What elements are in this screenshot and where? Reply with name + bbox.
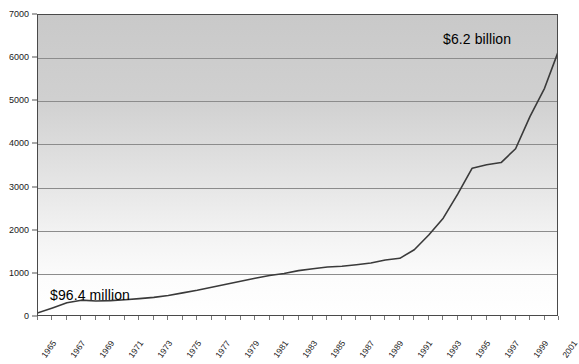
y-tick-label: 2000 <box>9 225 29 235</box>
x-tick-mark <box>413 316 414 320</box>
x-tick-label: 1981 <box>271 338 290 359</box>
x-tick-label: 1967 <box>68 338 87 359</box>
plot-area <box>37 14 558 316</box>
series-polyline <box>38 50 558 313</box>
y-tick-label: 0 <box>24 311 29 321</box>
x-tick-mark <box>558 316 559 320</box>
x-tick-mark <box>240 316 241 320</box>
x-tick-mark <box>182 316 183 320</box>
x-tick-mark <box>80 316 81 320</box>
x-tick-label: 1977 <box>213 338 232 359</box>
x-tick-mark <box>457 316 458 320</box>
x-tick-mark <box>399 316 400 320</box>
x-tick-mark <box>95 316 96 320</box>
x-tick-label: 1985 <box>329 338 348 359</box>
x-tick-mark <box>312 316 313 320</box>
x-tick-mark <box>138 316 139 320</box>
y-tick-label: 4000 <box>9 138 29 148</box>
x-tick-label: 1995 <box>473 338 492 359</box>
x-tick-mark <box>51 316 52 320</box>
x-tick-mark <box>109 316 110 320</box>
x-tick-mark <box>544 316 545 320</box>
x-tick-mark <box>341 316 342 320</box>
x-tick-mark <box>384 316 385 320</box>
x-tick-label: 2001 <box>560 338 579 359</box>
x-tick-label: 1991 <box>415 338 434 359</box>
x-tick-mark <box>167 316 168 320</box>
x-tick-mark <box>196 316 197 320</box>
x-tick-mark <box>153 316 154 320</box>
x-tick-mark <box>442 316 443 320</box>
x-tick-mark <box>486 316 487 320</box>
x-tick-label: 1989 <box>387 338 406 359</box>
x-tick-mark <box>428 316 429 320</box>
x-tick-label: 1969 <box>97 338 116 359</box>
x-tick-label: 1987 <box>358 338 377 359</box>
x-tick-mark <box>37 316 38 320</box>
series-line-value <box>38 15 558 316</box>
x-tick-label: 1965 <box>39 338 58 359</box>
x-tick-mark <box>370 316 371 320</box>
annotation-high-value: $6.2 billion <box>443 31 511 47</box>
x-tick-label: 1983 <box>300 338 319 359</box>
y-tick-label: 6000 <box>9 52 29 62</box>
x-tick-mark <box>225 316 226 320</box>
x-tick-mark <box>283 316 284 320</box>
x-tick-label: 1975 <box>184 338 203 359</box>
y-tick-label: 3000 <box>9 182 29 192</box>
x-tick-mark <box>471 316 472 320</box>
x-tick-mark <box>298 316 299 320</box>
x-tick-mark <box>326 316 327 320</box>
x-tick-mark <box>66 316 67 320</box>
x-tick-mark <box>254 316 255 320</box>
x-tick-mark <box>529 316 530 320</box>
x-axis: 1965196719691971197319751977197919811983… <box>37 316 558 364</box>
y-tick-label: 7000 <box>9 9 29 19</box>
x-tick-label: 1999 <box>531 338 550 359</box>
x-tick-label: 1993 <box>444 338 463 359</box>
y-tick-label: 5000 <box>9 95 29 105</box>
x-tick-label: 1997 <box>502 338 521 359</box>
x-tick-mark <box>500 316 501 320</box>
x-tick-label: 1973 <box>155 338 174 359</box>
x-tick-mark <box>269 316 270 320</box>
x-tick-mark <box>355 316 356 320</box>
y-axis: 01000200030004000500060007000 <box>0 0 37 330</box>
y-tick-label: 1000 <box>9 268 29 278</box>
x-tick-label: 1971 <box>126 338 145 359</box>
x-tick-mark <box>515 316 516 320</box>
x-tick-mark <box>124 316 125 320</box>
x-tick-mark <box>211 316 212 320</box>
x-tick-label: 1979 <box>242 338 261 359</box>
annotation-low-value: $96.4 million <box>50 287 130 303</box>
